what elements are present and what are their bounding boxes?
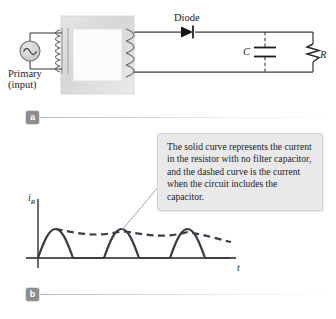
panel-a-rule [38, 117, 332, 118]
y-axis-label-subscript: R [31, 198, 35, 206]
primary-label-line1: Primary [8, 68, 42, 79]
figure-root: Diode Primary (input) C R iR t The solid… [0, 0, 336, 319]
series-solid-no-capacitor [38, 229, 229, 258]
primary-input-label: Primary (input) [8, 68, 42, 90]
circuit-diagram [20, 16, 319, 94]
resistor-label: R [320, 49, 326, 60]
panel-b-badge: b [26, 288, 39, 301]
diode-icon [181, 26, 193, 39]
resistor-icon [307, 44, 319, 62]
secondary-circuit-wires [134, 32, 313, 72]
series-dashed-with-capacitor [56, 229, 232, 242]
callout-box: The solid curve represents the current i… [157, 133, 323, 211]
primary-label-line2: (input) [8, 79, 37, 90]
capacitor-icon [254, 32, 276, 72]
ac-source-icon [20, 41, 40, 61]
capacitor-label: C [243, 46, 250, 57]
transformer-core-icon [61, 16, 134, 94]
y-axis-label: iR [28, 193, 35, 206]
panel-a-badge: a [26, 111, 39, 124]
x-axis-label: t [237, 263, 240, 273]
panel-b-rule [38, 294, 332, 295]
diode-label: Diode [174, 12, 200, 23]
